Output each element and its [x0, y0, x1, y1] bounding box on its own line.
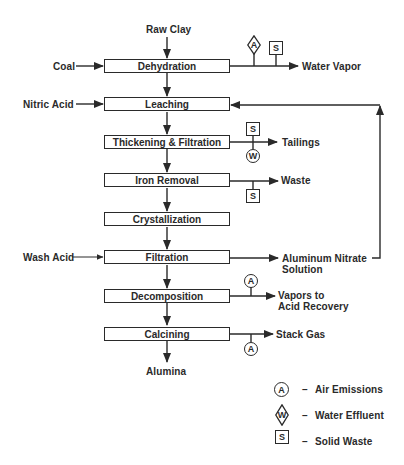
output-tailings: Tailings — [282, 137, 320, 148]
solid-waste-marker: S — [246, 189, 260, 203]
process-flow-diagram: Raw Clay Coal Nitric Acid Wash Acid Dehy… — [0, 0, 404, 465]
output-stack-gas: Stack Gas — [276, 329, 325, 340]
step-filtration: Filtration — [104, 250, 230, 264]
air-emission-marker: A — [244, 274, 258, 288]
step-crystallization: Crystallization — [104, 212, 230, 226]
legend-label-air-emissions: Air Emissions — [315, 384, 383, 395]
step-calcining: Calcining — [104, 327, 230, 341]
output-alumina: Alumina — [146, 366, 186, 377]
input-raw-clay: Raw Clay — [146, 24, 191, 35]
legend-diamond-icon: W — [275, 404, 289, 426]
step-thickening-filtration: Thickening & Filtration — [104, 135, 230, 149]
step-leaching: Leaching — [104, 97, 230, 111]
output-aluminum-nitrate-line1: Aluminum Nitrate — [282, 253, 367, 264]
water-effluent-marker: W — [246, 149, 260, 163]
legend-label-solid-waste: Solid Waste — [315, 436, 372, 447]
step-dehydration: Dehydration — [104, 59, 230, 73]
legend-label-water-effluent: Water Effluent — [315, 410, 384, 421]
legend-dash: – — [302, 384, 308, 395]
output-vapors-line1: Vapors to — [278, 290, 324, 301]
legend-circle-icon: A — [274, 382, 289, 397]
legend-dash: – — [302, 436, 308, 447]
step-iron-removal: Iron Removal — [104, 173, 230, 187]
input-nitric-acid: Nitric Acid — [23, 99, 74, 110]
input-wash-acid: Wash Acid — [23, 252, 74, 263]
legend-square-icon: S — [275, 430, 289, 444]
input-coal: Coal — [53, 61, 75, 72]
output-waste: Waste — [281, 175, 311, 186]
solid-waste-marker: S — [246, 122, 260, 136]
output-aluminum-nitrate-line2: Solution — [282, 264, 323, 275]
solid-waste-marker: S — [269, 41, 283, 55]
step-decomposition: Decomposition — [104, 289, 230, 303]
output-vapors-line2: Acid Recovery — [278, 301, 349, 312]
legend-dash: – — [302, 410, 308, 421]
air-emission-marker: A — [244, 342, 258, 356]
output-water-vapor: Water Vapor — [302, 61, 361, 72]
air-emission-diamond-marker: A — [247, 35, 261, 55]
